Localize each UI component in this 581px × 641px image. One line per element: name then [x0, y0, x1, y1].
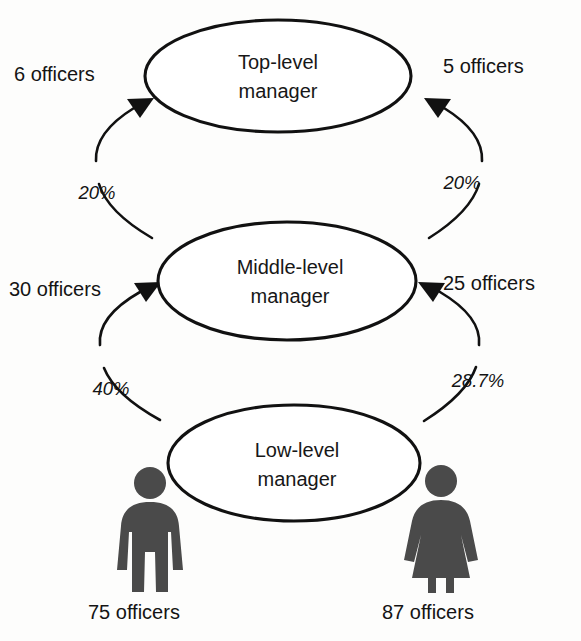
person-female-icon	[404, 465, 478, 593]
count-label-bottom-right: 87 officers	[382, 601, 474, 623]
flow-low-to-middle-right	[418, 282, 479, 421]
flow-arrowhead-icon	[424, 98, 451, 118]
pct-label-low-to-middle-right: 28.7%	[451, 370, 504, 391]
flow-arrow-path	[100, 292, 140, 345]
node-label-line2: manager	[251, 285, 330, 307]
count-label-top-right: 5 officers	[443, 55, 524, 77]
flow-arrow-path	[444, 108, 482, 161]
count-label-top-left: 6 officers	[14, 63, 95, 85]
person-male-icon	[117, 467, 183, 592]
flow-arrow-path	[440, 292, 479, 345]
flow-arrow-path	[96, 108, 134, 161]
promotion-flow-diagram: Top-level manager Middle-level manager L…	[0, 0, 581, 641]
node-label-line1: Low-level	[255, 439, 339, 461]
count-label-middle-right: 25 officers	[443, 272, 535, 294]
pct-label-low-to-middle-left: 40%	[92, 378, 129, 399]
count-label-bottom-left: 75 officers	[88, 601, 180, 623]
node-top-level-manager[interactable]: Top-level manager	[145, 20, 411, 132]
node-low-level-manager[interactable]: Low-level manager	[168, 405, 420, 521]
flow-arrowhead-icon	[127, 98, 154, 118]
pct-label-middle-to-top-left: 20%	[77, 182, 115, 203]
node-middle-level-manager[interactable]: Middle-level manager	[158, 222, 416, 340]
pct-label-middle-to-top-right: 20%	[442, 172, 480, 193]
node-ellipse	[158, 222, 416, 340]
flow-middle-to-top-right	[424, 98, 482, 238]
node-label-line2: manager	[239, 80, 318, 102]
node-label-line1: Middle-level	[237, 256, 344, 278]
node-ellipse	[168, 405, 420, 521]
node-label-line1: Top-level	[238, 51, 318, 73]
diagram-root: Top-level manager Middle-level manager L…	[0, 0, 581, 641]
node-ellipse	[145, 20, 411, 132]
flow-middle-to-top-left	[96, 98, 154, 238]
flow-low-to-middle-left	[100, 282, 161, 420]
count-label-middle-left: 30 officers	[9, 278, 101, 300]
node-label-line2: manager	[258, 468, 337, 490]
